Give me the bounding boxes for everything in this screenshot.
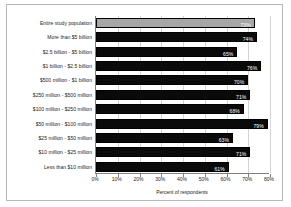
category-label: $100 million - $250 million <box>33 102 92 116</box>
chart-frame: Entire study population More than $5 bil… <box>6 4 283 201</box>
x-axis-tick-labels: 0% 10% 20% 30% 40% 50% 60% 70% 80% <box>95 176 269 186</box>
bar[interactable]: 70% <box>96 75 248 85</box>
bar-value-label: 76% <box>94 63 260 74</box>
gridline <box>270 16 271 173</box>
bar-value-label: 61% <box>94 164 228 175</box>
bar-row: 71% <box>96 88 269 102</box>
bar-row: 61% <box>96 160 269 174</box>
bar-row: 76% <box>96 59 269 73</box>
bar[interactable]: 71% <box>96 90 250 100</box>
x-tick-label: 80% <box>264 176 274 182</box>
bar[interactable]: 76% <box>96 61 261 71</box>
x-tick-label: 60% <box>220 176 230 182</box>
bar[interactable]: 68% <box>96 104 244 114</box>
bar-value-label: 70% <box>94 77 247 88</box>
category-label: $250 million - $500 million <box>33 88 92 102</box>
bar-value-label: 68% <box>94 106 243 117</box>
bar-value-label: 63% <box>94 135 232 146</box>
bar-value-label: 79% <box>94 121 267 132</box>
bar[interactable]: 79% <box>96 119 268 129</box>
bar-row: 74% <box>96 30 269 44</box>
x-tick-label: 50% <box>199 176 209 182</box>
category-label: More than $5 billion <box>47 30 92 44</box>
category-label: $2.5 billion - $5 billion <box>43 45 92 59</box>
category-label: Entire study population <box>40 16 92 30</box>
category-label: $10 million - $25 million <box>39 145 93 159</box>
bar[interactable]: 61% <box>96 162 229 172</box>
x-tick-label: 10% <box>112 176 122 182</box>
bar-row: 70% <box>96 73 269 87</box>
x-tick-label: 0% <box>91 176 98 182</box>
category-label: $25 million - $50 million <box>39 131 93 145</box>
bar-row: 68% <box>96 102 269 116</box>
x-tick-label: 70% <box>242 176 252 182</box>
bar-row: 65% <box>96 45 269 59</box>
x-tick-label: 20% <box>133 176 143 182</box>
category-label: $50 million - $100 million <box>36 117 92 131</box>
bar-value-label: 65% <box>94 49 236 60</box>
bar-row: 63% <box>96 131 269 145</box>
bar-value-label: 71% <box>94 92 249 103</box>
x-tick-label: 30% <box>155 176 165 182</box>
x-tick-label: 40% <box>177 176 187 182</box>
bar-value-label: 71% <box>94 149 249 160</box>
category-axis-labels: Entire study population More than $5 bil… <box>17 16 92 174</box>
bar-value-label: 73% <box>94 20 254 31</box>
bar-row: 71% <box>96 145 269 159</box>
bar[interactable]: 63% <box>96 133 233 143</box>
bar[interactable]: 71% <box>96 147 250 157</box>
category-label: $500 million - $1 billion <box>40 73 92 87</box>
category-label: Less than $10 million <box>44 160 92 174</box>
bar-value-label: 74% <box>94 34 256 45</box>
bar-row: 73% <box>96 16 269 30</box>
bar[interactable]: 74% <box>96 32 257 42</box>
plot-area: 73% 74% 65% 76% 70% 71% <box>95 16 269 174</box>
x-axis-title: Percent of respondents <box>95 189 269 195</box>
bar[interactable]: 65% <box>96 47 237 57</box>
bar[interactable]: 73% <box>96 18 255 28</box>
bar-row: 79% <box>96 117 269 131</box>
category-label: $1 billion - $2.5 billion <box>43 59 92 73</box>
